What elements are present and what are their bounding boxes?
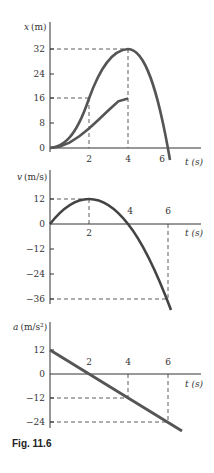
y-tick-label: −24 [26, 417, 45, 427]
y-axis-title: x(m) [24, 22, 47, 32]
acceleration-line [50, 350, 182, 431]
y-tick-label: −36 [26, 294, 45, 304]
y-tick-label: −12 [26, 244, 45, 254]
x-tick-label: 2 [86, 228, 92, 238]
y-tick-label: 0 [39, 219, 45, 229]
x-tick-label: 6 [165, 357, 171, 367]
y-tick-label: 16 [34, 93, 46, 103]
acceleration-plot: 12 0 −12 −24 2 4 6 a(m/s²) t (s) [13, 322, 204, 431]
x-axis-title: t (s) [185, 228, 204, 238]
figure-caption: Fig. 11.6 [12, 438, 51, 449]
y-tick-label: 12 [34, 194, 45, 204]
velocity-curve [50, 199, 171, 310]
x-tick-label: 4 [125, 154, 131, 164]
y-tick-label: −24 [26, 269, 45, 279]
x-tick-label: 4 [125, 357, 131, 367]
y-tick-label: 32 [34, 44, 45, 54]
y-axis-title: v(m/s) [17, 172, 47, 182]
x-tick-label: 4 [127, 206, 133, 216]
y-axis-title: a(m/s²) [13, 322, 47, 332]
x-tick-label: 2 [86, 357, 92, 367]
y-tick-label: 0 [39, 143, 45, 153]
y-tick-label: 12 [34, 345, 45, 355]
x-tick-label: 2 [86, 154, 92, 164]
y-tick-label: 24 [34, 69, 46, 79]
x-tick-label: 6 [159, 154, 165, 164]
x-axis-title: t (s) [185, 379, 204, 389]
velocity-plot: 12 0 −12 −24 −36 2 4 6 v(m/s) t (s) [17, 170, 204, 310]
position-plot: 32 24 16 8 0 2 4 6 x(m) t (s) [24, 22, 204, 167]
kinematics-figure: 32 24 16 8 0 2 4 6 x(m) t (s) 12 0 −12 − [0, 0, 214, 473]
x-axis-title: t (s) [185, 157, 204, 167]
y-tick-label: −12 [26, 393, 45, 403]
x-tick-label: 6 [165, 206, 171, 216]
y-tick-label: 8 [39, 118, 45, 128]
y-tick-label: 0 [39, 369, 45, 379]
